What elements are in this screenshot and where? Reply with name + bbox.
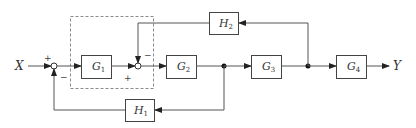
summing-junction-2 bbox=[135, 63, 141, 69]
s2-minus-sign: − bbox=[144, 50, 152, 60]
s1-plus-sign: + bbox=[44, 53, 52, 63]
input-label-x: X bbox=[14, 59, 24, 73]
summing-junction-1 bbox=[51, 63, 57, 69]
block-diagram: X + − G1 + − G2 G3 G4 Y H2 H1 bbox=[0, 0, 416, 128]
s1-minus-sign: − bbox=[60, 72, 68, 82]
s2-plus-sign: + bbox=[124, 73, 132, 83]
output-label-y: Y bbox=[393, 59, 402, 73]
